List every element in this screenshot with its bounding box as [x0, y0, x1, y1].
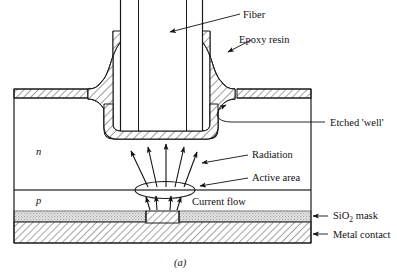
label-radiation: Radiation [252, 149, 294, 160]
label-etched-well: Etched 'well' [330, 117, 384, 128]
label-p-region: p [35, 195, 41, 206]
label-current-flow: Current flow [192, 196, 246, 207]
label-n-region: n [36, 146, 41, 157]
label-sio2-mask: SiO2 mask [333, 210, 379, 224]
top-contact-right [237, 89, 311, 98]
label-epoxy-resin: Epoxy resin [239, 34, 290, 45]
optical-fiber [120, 0, 203, 131]
label-active-area: Active area [252, 172, 300, 183]
cross-section-drawing: Fiber Epoxy resin Etched 'well' Radiatio… [0, 0, 397, 279]
label-sio2-suffix: mask [353, 210, 379, 221]
top-contact-left [14, 89, 88, 98]
label-metal-contact: Metal contact [333, 229, 391, 240]
figure-caption: (a) [174, 257, 187, 269]
figure-led-fiber-cross-section: Fiber Epoxy resin Etched 'well' Radiatio… [0, 0, 397, 279]
label-fiber: Fiber [243, 9, 266, 20]
label-sio2-prefix: SiO [333, 210, 350, 221]
